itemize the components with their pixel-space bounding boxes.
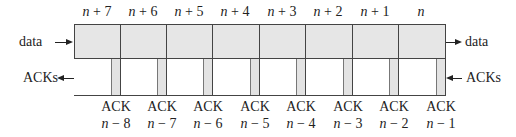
arrow-right-icon xyxy=(66,39,73,45)
ack-number: n − 8 xyxy=(96,117,136,131)
ack-label: ACK xyxy=(328,100,368,114)
segment-label: n + 3 xyxy=(259,4,305,20)
ack-bar xyxy=(436,59,445,95)
left-acks-label: ACKs xyxy=(23,70,58,86)
arrow-right-icon xyxy=(455,39,462,45)
segment-divider xyxy=(120,24,121,95)
ack-bar xyxy=(157,59,166,95)
ack-number: n − 5 xyxy=(235,117,275,131)
ack-label: ACK xyxy=(142,100,182,114)
ack-number: n − 6 xyxy=(188,117,228,131)
ack-bar xyxy=(250,59,259,95)
segment-divider xyxy=(305,24,306,95)
ack-number: n − 1 xyxy=(421,117,461,131)
segment-divider xyxy=(352,24,353,95)
data-segments-band xyxy=(74,24,446,59)
ack-label: ACK xyxy=(374,100,414,114)
ack-number: n − 7 xyxy=(142,117,182,131)
ack-bar xyxy=(111,59,120,95)
ack-number: n − 3 xyxy=(328,117,368,131)
segment-label: n xyxy=(398,4,444,20)
ack-bar xyxy=(203,59,212,95)
segment-label: n + 5 xyxy=(166,4,212,20)
ack-label: ACK xyxy=(188,100,228,114)
right-acks-arrow-line xyxy=(452,78,462,79)
ack-bar xyxy=(343,59,352,95)
right-data-label: data xyxy=(465,34,488,50)
ack-label: ACK xyxy=(421,100,461,114)
segment-divider xyxy=(259,24,260,95)
ack-label: ACK xyxy=(235,100,275,114)
ack-label: ACK xyxy=(281,100,321,114)
segment-divider xyxy=(398,24,399,95)
left-acks-arrow-line xyxy=(63,78,74,79)
ack-number: n − 4 xyxy=(281,117,321,131)
segment-label: n + 4 xyxy=(212,4,258,20)
segment-label: n + 7 xyxy=(74,4,120,20)
segment-label: n + 6 xyxy=(120,4,166,20)
window-right-edge xyxy=(445,24,446,95)
right-acks-label: ACKs xyxy=(466,70,501,86)
ack-number: n − 2 xyxy=(374,117,414,131)
ack-baseline xyxy=(74,95,446,96)
ack-bar xyxy=(389,59,398,95)
ack-bar xyxy=(296,59,305,95)
segment-label: n + 2 xyxy=(305,4,351,20)
segment-divider xyxy=(166,24,167,95)
ack-label: ACK xyxy=(96,100,136,114)
left-data-label: data xyxy=(19,34,42,50)
segment-divider xyxy=(212,24,213,95)
segment-label: n + 1 xyxy=(352,4,398,20)
